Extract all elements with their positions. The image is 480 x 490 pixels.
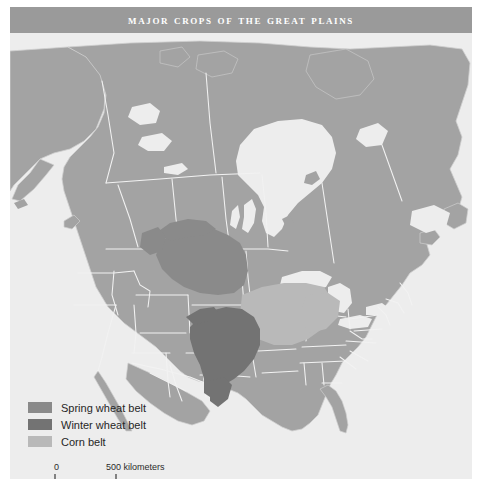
legend-item-corn-belt: Corn belt bbox=[28, 434, 146, 449]
legend-swatch-corn-belt bbox=[28, 436, 52, 447]
legend-item-winter-wheat-belt: Winter wheat belt bbox=[28, 417, 146, 432]
legend-label-winter-wheat-belt: Winter wheat belt bbox=[61, 419, 146, 431]
legend-swatch-spring-wheat-belt bbox=[28, 402, 52, 413]
map-figure: Major Crops of the Great Plains bbox=[10, 7, 472, 479]
map-title-band: Major Crops of the Great Plains bbox=[10, 7, 472, 33]
legend-item-spring-wheat-belt: Spring wheat belt bbox=[28, 400, 146, 415]
scale-bar-labels: 0 500 kilometers bbox=[54, 462, 204, 474]
legend-label-spring-wheat-belt: Spring wheat belt bbox=[61, 402, 146, 414]
scale-bar-graphic bbox=[54, 474, 144, 479]
map-scale-bar: 0 500 kilometers bbox=[54, 462, 204, 479]
scale-bar-zero-label: 0 bbox=[54, 462, 59, 472]
legend-swatch-winter-wheat-belt bbox=[28, 419, 52, 430]
page-title: Major Crops of the Great Plains bbox=[128, 12, 354, 28]
legend-label-corn-belt: Corn belt bbox=[61, 436, 106, 448]
map-legend: Spring wheat belt Winter wheat belt Corn… bbox=[28, 400, 146, 451]
scale-bar-max-label: 500 kilometers bbox=[106, 462, 165, 472]
